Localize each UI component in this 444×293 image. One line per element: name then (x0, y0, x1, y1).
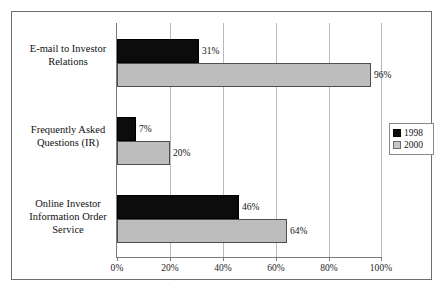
bar-value-online-investor-2000: 64% (290, 227, 307, 237)
bar-email-2000[interactable] (117, 63, 371, 87)
xtick-0 (117, 257, 118, 261)
gridline-100 (381, 23, 382, 257)
bar-faq-2000[interactable] (117, 141, 170, 165)
xtick-label-0: 0% (111, 263, 124, 273)
xtick-label-20: 20% (161, 263, 179, 273)
xtick-20 (170, 257, 171, 261)
category-label-line: Questions (IR) (20, 136, 116, 149)
xtick-label-80: 80% (320, 263, 338, 273)
chart-legend: 1998 2000 (389, 123, 434, 155)
bar-value-faq-2000: 20% (173, 149, 190, 159)
bar-online-investor-2000[interactable] (117, 219, 287, 243)
bar-email-1998[interactable] (117, 39, 199, 63)
category-label-line: Service (20, 223, 116, 236)
legend-swatch-2000-icon (393, 141, 401, 149)
gridline-80 (329, 23, 330, 257)
xtick-60 (276, 257, 277, 261)
xtick-100 (381, 257, 382, 261)
legend-item-1998[interactable]: 1998 (393, 127, 429, 139)
xtick-label-100: 100% (370, 263, 393, 273)
xtick-label-40: 40% (214, 263, 232, 273)
bar-online-investor-1998[interactable] (117, 195, 239, 219)
category-label-line: Information Order (20, 210, 116, 223)
xtick-label-60: 60% (267, 263, 285, 273)
category-label-online-investor: Online Investor Information Order Servic… (20, 197, 116, 236)
category-label-line: Frequently Asked (20, 123, 116, 136)
category-label-faq: Frequently Asked Questions (IR) (20, 123, 116, 149)
category-label-line: E-mail to Investor (20, 42, 116, 55)
bar-value-online-investor-1998: 46% (242, 203, 259, 213)
legend-swatch-1998-icon (393, 129, 401, 137)
legend-item-2000[interactable]: 2000 (393, 139, 429, 151)
legend-label-2000: 2000 (404, 139, 423, 151)
legend-label-1998: 1998 (404, 127, 423, 139)
bar-value-email-1998: 31% (202, 47, 219, 57)
plot-area: 31% 96% 7% 20% 46% 64% 0% 20% 40% 60% 80… (116, 23, 381, 258)
category-label-line: Online Investor (20, 197, 116, 210)
bar-value-email-2000: 96% (374, 71, 391, 81)
bar-value-faq-1998: 7% (139, 125, 152, 135)
bar-faq-1998[interactable] (117, 117, 136, 141)
xtick-80 (329, 257, 330, 261)
xtick-40 (223, 257, 224, 261)
category-label-email: E-mail to Investor Relations (20, 42, 116, 68)
chart-frame: E-mail to Investor Relations Frequently … (11, 11, 432, 280)
category-label-line: Relations (20, 55, 116, 68)
